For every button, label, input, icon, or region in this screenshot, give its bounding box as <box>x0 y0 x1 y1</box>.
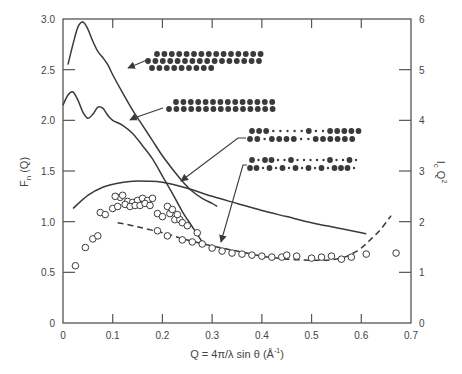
atom-dot <box>225 99 231 105</box>
atom-dot <box>213 51 219 57</box>
atom-dot <box>247 99 253 105</box>
atom-dot <box>319 165 325 171</box>
atom-dot <box>327 157 333 163</box>
atom-dot <box>171 65 177 71</box>
x-tick-label: 0.2 <box>155 330 169 341</box>
x-tick-label: 0.7 <box>404 330 418 341</box>
atom-dot <box>355 159 357 161</box>
atom-dot <box>247 136 253 142</box>
atom-dot <box>227 58 233 64</box>
atom-dot <box>286 130 288 132</box>
data-point-circle <box>293 253 300 260</box>
x-tick-label: 0.5 <box>305 330 319 341</box>
data-point-circle <box>229 250 236 257</box>
atom-dot <box>203 106 209 112</box>
data-point-circle <box>189 239 196 246</box>
data-point-circle <box>283 252 290 259</box>
atom-dot <box>232 99 238 105</box>
atom-dot <box>195 99 201 105</box>
data-point-circle <box>249 252 256 259</box>
data-point-circle <box>95 233 102 240</box>
atom-dot <box>249 58 255 64</box>
atom-dot <box>341 128 347 134</box>
x-tick-label: 0.3 <box>205 330 219 341</box>
atom-dot <box>320 136 326 142</box>
data-series <box>63 22 391 260</box>
data-point-circle <box>184 222 191 229</box>
atom-dot <box>288 157 294 163</box>
data-point-circle <box>159 213 166 220</box>
data-point-circle <box>318 254 325 261</box>
y2-tick-label: 5 <box>419 65 425 76</box>
atom-dot <box>157 65 163 71</box>
atom-dot <box>270 106 276 112</box>
atom-dot <box>228 51 234 57</box>
atom-dot <box>338 165 344 171</box>
atom-dot <box>306 165 312 171</box>
data-point-circle <box>199 241 206 248</box>
y2-tick-label: 6 <box>419 14 425 25</box>
x-tick-label: 0.4 <box>255 330 269 341</box>
atom-dot <box>247 165 253 171</box>
atom-dot <box>301 130 303 132</box>
y-tick-label: 2.5 <box>41 65 55 76</box>
atom-dot <box>234 58 240 64</box>
atom-dot <box>256 58 262 64</box>
axis-ticks: 00.10.20.30.40.50.60.700.51.01.52.02.53.… <box>41 14 425 341</box>
atom-dot <box>211 106 217 112</box>
atom-dot <box>249 157 255 163</box>
atom-dot <box>313 136 319 142</box>
atom-dot <box>263 138 265 140</box>
atom-dot <box>197 58 203 64</box>
x-tick-label: 0.1 <box>106 330 120 341</box>
atom-dot <box>164 65 170 71</box>
atom-dot <box>296 159 298 161</box>
data-point-circle <box>338 256 345 263</box>
y2-tick-label: 4 <box>419 115 425 126</box>
data-point-circle <box>179 237 186 244</box>
atom-dot <box>219 58 225 64</box>
atom-dot <box>210 99 216 105</box>
atom-dot <box>256 128 262 134</box>
data-point-circle <box>82 244 89 251</box>
atom-dot <box>249 128 255 134</box>
atom-dot <box>322 159 324 161</box>
atom-dot <box>327 136 333 142</box>
atom-dot <box>182 58 188 64</box>
atom-dot <box>314 167 316 169</box>
y-tick-label: 2.0 <box>41 115 55 126</box>
atom-dot <box>272 130 274 132</box>
atom-dot <box>263 128 269 134</box>
atom-dot <box>176 51 182 57</box>
atom-dot <box>233 106 239 112</box>
atom-dot <box>349 136 355 142</box>
atom-dot <box>315 130 317 132</box>
y-axis-label: Fn (Q) <box>18 157 33 187</box>
data-point-circle <box>363 251 370 258</box>
data-point-circle <box>119 192 126 199</box>
atom-dot <box>169 51 175 57</box>
y2-tick-label: 3 <box>419 166 425 177</box>
atom-dot <box>236 51 242 57</box>
atom-dot <box>254 165 260 171</box>
x-tick-label: 0 <box>60 330 66 341</box>
atom-dot <box>280 165 286 171</box>
atom-dot <box>334 128 340 134</box>
data-point-circle <box>308 255 315 262</box>
atom-dot <box>218 106 224 112</box>
atom-dot <box>208 65 214 71</box>
chart: 00.10.20.30.40.50.60.700.51.01.52.02.53.… <box>0 0 462 374</box>
atom-dot <box>316 159 318 161</box>
atom-dot <box>181 106 187 112</box>
atom-dot <box>306 128 312 134</box>
atom-dot <box>181 99 187 105</box>
x-tick-label: 0.6 <box>354 330 368 341</box>
atom-dot <box>293 130 295 132</box>
atom-dot <box>190 58 196 64</box>
y2-tick-label: 1 <box>419 267 425 278</box>
y2-axis-label: Ic Q2 <box>432 161 448 184</box>
atom-dot <box>196 106 202 112</box>
atom-dot <box>307 138 309 140</box>
data-point-circle <box>393 250 400 257</box>
atom-dot <box>199 51 205 57</box>
